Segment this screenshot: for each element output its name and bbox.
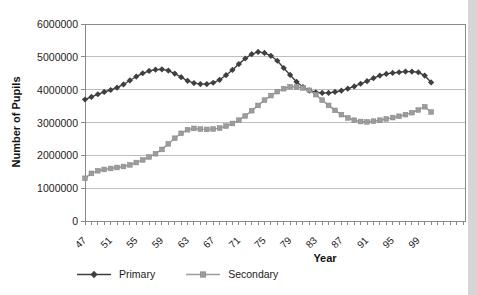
x-tick-label: 63 <box>175 234 191 250</box>
data-point-marker <box>134 160 139 165</box>
data-point-marker <box>210 80 216 86</box>
data-point-marker <box>179 131 184 136</box>
data-point-marker <box>390 115 395 120</box>
data-point-marker <box>352 118 357 123</box>
data-point-marker <box>294 85 299 90</box>
data-point-marker <box>102 167 107 172</box>
data-point-marker <box>165 68 171 74</box>
data-point-marker <box>301 86 306 91</box>
data-point-marker <box>185 127 190 132</box>
data-point-marker <box>147 155 152 160</box>
data-point-marker <box>133 73 139 79</box>
data-point-marker <box>358 81 364 87</box>
y-tick-label: 2000000 <box>20 149 78 161</box>
data-point-marker <box>82 96 88 102</box>
data-point-marker <box>345 86 351 92</box>
x-tick-label: 67 <box>201 234 217 250</box>
data-point-marker <box>397 114 402 119</box>
y-tick-label: 4000000 <box>20 84 78 96</box>
data-point-marker <box>127 162 132 167</box>
data-point-marker <box>345 116 350 121</box>
x-tick-label: 87 <box>329 234 345 250</box>
x-tick-label: 59 <box>150 234 166 250</box>
x-tick-label: 71 <box>227 234 243 250</box>
data-point-marker <box>115 165 120 170</box>
data-point-marker <box>184 78 190 84</box>
data-point-marker <box>140 70 146 76</box>
data-point-marker <box>198 127 203 132</box>
data-point-marker <box>403 112 408 117</box>
data-point-marker <box>319 90 325 96</box>
data-point-marker <box>95 168 100 173</box>
data-point-marker <box>256 103 261 108</box>
data-point-marker <box>243 114 248 119</box>
x-tick-label: 75 <box>252 234 268 250</box>
line-chart: 4751555963677175798387919599 60000005000… <box>0 0 477 295</box>
plot-area: 4751555963677175798387919599 <box>0 0 477 295</box>
data-point-marker <box>204 81 210 87</box>
data-point-marker <box>358 119 363 124</box>
x-tick-label: 47 <box>73 234 89 250</box>
legend-label-secondary: Secondary <box>228 268 278 280</box>
data-point-marker <box>88 94 94 100</box>
y-tick-label: 5000000 <box>20 51 78 63</box>
data-point-marker <box>377 72 383 78</box>
data-point-marker <box>396 69 402 75</box>
data-point-marker <box>268 93 273 98</box>
data-point-marker <box>153 151 158 156</box>
data-point-marker <box>146 68 152 74</box>
y-tick-label: 0 <box>20 215 78 227</box>
data-point-marker <box>371 119 376 124</box>
data-point-marker <box>377 118 382 123</box>
data-point-marker <box>140 158 145 163</box>
data-point-marker <box>281 86 286 91</box>
secondary-marker-icon <box>185 269 221 280</box>
data-point-marker <box>178 74 184 80</box>
data-point-marker <box>333 108 338 113</box>
data-point-marker <box>172 70 178 76</box>
data-point-marker <box>364 78 370 84</box>
data-point-marker <box>192 126 197 131</box>
data-point-marker <box>410 110 415 115</box>
x-tick-label: 95 <box>380 234 396 250</box>
data-point-marker <box>338 88 344 94</box>
data-point-marker <box>197 81 203 87</box>
data-point-marker <box>390 70 396 76</box>
y-tick-label: 1000000 <box>20 182 78 194</box>
data-point-marker <box>365 119 370 124</box>
data-point-marker <box>230 121 235 126</box>
data-point-marker <box>89 171 94 176</box>
data-point-marker <box>249 108 254 113</box>
y-tick-label: 3000000 <box>20 117 78 129</box>
data-point-marker <box>83 176 88 181</box>
y-tick-label: 6000000 <box>20 18 78 30</box>
legend-item-secondary: Secondary <box>185 268 278 280</box>
data-point-marker <box>325 90 331 96</box>
data-point-marker <box>255 49 261 55</box>
legend-label-primary: Primary <box>119 268 155 280</box>
data-point-marker <box>160 147 165 152</box>
x-tick-label: 91 <box>355 234 371 250</box>
data-point-marker <box>191 80 197 86</box>
x-tick-label: 51 <box>98 234 114 250</box>
data-point-marker <box>152 67 158 73</box>
data-point-marker <box>236 118 241 123</box>
data-point-marker <box>95 91 101 97</box>
data-point-marker <box>409 69 415 75</box>
data-point-marker <box>108 87 114 93</box>
x-tick-label: 83 <box>304 234 320 250</box>
data-point-marker <box>339 112 344 117</box>
data-point-marker <box>383 71 389 77</box>
data-point-marker <box>275 89 280 94</box>
data-point-marker <box>288 84 293 89</box>
data-point-marker <box>429 110 434 115</box>
x-tick-label: 79 <box>278 234 294 250</box>
data-point-marker <box>204 127 209 132</box>
data-point-marker <box>416 108 421 113</box>
data-point-marker <box>422 104 427 109</box>
data-point-marker <box>370 75 376 81</box>
data-point-marker <box>108 166 113 171</box>
right-gutter <box>468 0 477 295</box>
data-point-marker <box>313 92 318 97</box>
x-axis-title: Year <box>285 252 365 264</box>
